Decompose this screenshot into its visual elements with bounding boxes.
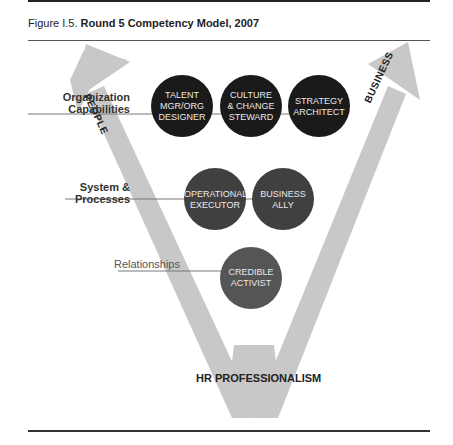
tier-label-systems: System & Processes xyxy=(30,181,130,205)
competency-talent: TALENT MGR/ORG DESIGNER xyxy=(151,90,213,123)
competency-operational: OPERATIONAL EXECUTOR xyxy=(184,189,246,211)
competency-business-ally: BUSINESS ALLY xyxy=(252,189,314,211)
tier-label-organization: Organization Capabilities xyxy=(30,91,130,115)
hr-professionalism-label: HR PROFESSIONALISM xyxy=(196,372,321,384)
people-arrow xyxy=(86,86,254,418)
competency-strategy: STRATEGY ARCHITECT xyxy=(288,96,350,118)
bottom-rule xyxy=(28,430,430,432)
competency-culture: CULTURE & CHANGE STEWARD xyxy=(220,90,282,123)
competency-credible: CREDIBLE ACTIVIST xyxy=(220,267,282,289)
tier-label-relationships: Relationships xyxy=(60,258,180,270)
